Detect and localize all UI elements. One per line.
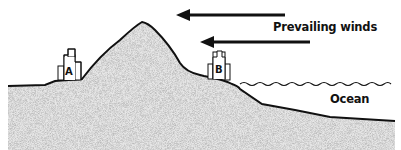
land-mass — [8, 22, 395, 150]
building-a-label: A — [65, 66, 73, 77]
prevailing-winds-label: Prevailing winds — [273, 20, 377, 34]
building-b-label: B — [215, 64, 223, 75]
lower-wind-arrow-icon — [200, 36, 310, 48]
ocean-surface-waves — [240, 83, 391, 86]
upper-wind-arrow-icon — [176, 9, 285, 21]
ocean-label: Ocean — [330, 92, 369, 106]
